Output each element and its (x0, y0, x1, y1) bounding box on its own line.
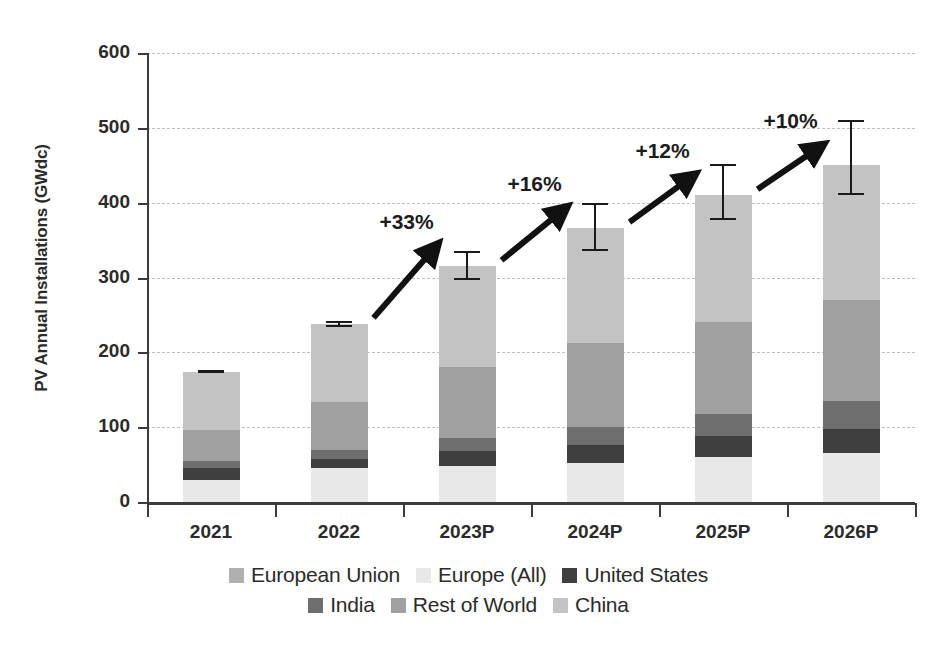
bar-segment-europe-all (311, 468, 368, 502)
error-bar-cap-bottom (582, 249, 608, 251)
y-tick-label-200: 200 (58, 340, 130, 362)
y-axis-title: PV Annual Installations (GWdc) (32, 58, 52, 478)
x-tick-6 (915, 503, 917, 517)
legend-row-bottom: IndiaRest of WorldChina (0, 593, 937, 617)
y-tick-400 (138, 203, 149, 205)
legend-swatch-icon (391, 598, 406, 613)
legend-label: China (575, 593, 629, 617)
gridline-100 (147, 427, 915, 428)
error-bar-cap-top (838, 120, 864, 122)
bar-segment-china (311, 324, 368, 402)
bar-segment-europe-all (183, 480, 240, 502)
error-bar-cap-top (326, 321, 352, 323)
gridline-600 (147, 53, 915, 54)
error-bar-cap-bottom (838, 193, 864, 195)
x-tick-4 (659, 503, 661, 517)
bar-segment-india (695, 414, 752, 436)
bar-2021 (183, 372, 240, 502)
bar-segment-united-states (567, 445, 624, 463)
bar-2024p (567, 228, 624, 502)
y-tick-100 (138, 427, 149, 429)
legend-item-european-union[interactable]: European Union (229, 563, 400, 587)
error-bar-cap-bottom (454, 278, 480, 280)
error-bar-stem (722, 164, 724, 220)
error-bar-2026p (823, 120, 880, 195)
bar-2026p (823, 165, 880, 502)
x-tick-3 (531, 503, 533, 517)
growth-label-2025p: +12% (635, 139, 689, 163)
legend-swatch-icon (416, 568, 431, 583)
y-tick-label-100: 100 (58, 415, 130, 437)
error-bar-stem (594, 203, 596, 252)
pv-installations-chart: PV Annual Installations (GWdc) 010020030… (0, 0, 937, 663)
error-bar-2024p (567, 203, 624, 252)
legend-item-india[interactable]: India (308, 593, 375, 617)
bar-2023p (439, 266, 496, 502)
error-bar-2023p (439, 251, 496, 280)
error-bar-2022 (311, 321, 368, 327)
bar-segment-united-states (311, 459, 368, 468)
error-bar-2025p (695, 164, 752, 220)
y-tick-label-500: 500 (58, 116, 130, 138)
bar-segment-united-states (439, 451, 496, 466)
x-tick-label-2023p: 2023P (407, 521, 527, 543)
y-tick-label-600: 600 (58, 41, 130, 63)
legend-row-top: European UnionEurope (All)United States (0, 563, 937, 587)
gridline-400 (147, 203, 915, 204)
gridline-300 (147, 278, 915, 279)
y-tick-label-0: 0 (58, 490, 130, 512)
legend-swatch-icon (562, 568, 577, 583)
bar-2025p (695, 195, 752, 502)
bar-segment-united-states (183, 468, 240, 481)
x-tick-label-2024p: 2024P (535, 521, 655, 543)
legend-label: European Union (251, 563, 400, 587)
legend-swatch-icon (553, 598, 568, 613)
x-tick-0 (147, 503, 149, 517)
x-tick-2 (403, 503, 405, 517)
legend-item-united-states[interactable]: United States (562, 563, 707, 587)
error-bar-2021 (183, 370, 240, 373)
bar-segment-united-states (823, 429, 880, 454)
bar-segment-rest-of-world (695, 322, 752, 413)
bar-segment-rest-of-world (439, 367, 496, 438)
legend-item-china[interactable]: China (553, 593, 629, 617)
bar-segment-india (567, 427, 624, 445)
error-bar-cap-top (710, 164, 736, 166)
y-tick-600 (138, 53, 149, 55)
y-tick-label-300: 300 (58, 266, 130, 288)
bar-segment-india (823, 401, 880, 429)
error-bar-cap-top (582, 203, 608, 205)
error-bar-cap-top (454, 251, 480, 253)
bar-segment-europe-all (695, 457, 752, 502)
gridline-200 (147, 352, 915, 353)
x-tick-label-2026p: 2026P (791, 521, 911, 543)
bar-segment-rest-of-world (567, 343, 624, 427)
error-bar-cap-bottom (326, 325, 352, 327)
legend-item-rest-of-world[interactable]: Rest of World (391, 593, 537, 617)
bar-segment-china (439, 266, 496, 367)
chart-legend: European UnionEurope (All)United States … (0, 563, 937, 623)
y-tick-200 (138, 352, 149, 354)
bar-segment-india (183, 461, 240, 468)
growth-label-2024p: +16% (507, 172, 561, 196)
legend-label: India (330, 593, 375, 617)
x-tick-label-2021: 2021 (151, 521, 271, 543)
bar-segment-rest-of-world (311, 402, 368, 451)
legend-swatch-icon (308, 598, 323, 613)
bar-segment-europe-all (439, 466, 496, 502)
growth-label-2023p: +33% (379, 210, 433, 234)
bar-segment-europe-all (567, 463, 624, 502)
legend-item-europe-all[interactable]: Europe (All) (416, 563, 546, 587)
x-tick-label-2025p: 2025P (663, 521, 783, 543)
bar-segment-china (183, 372, 240, 430)
legend-swatch-icon (229, 568, 244, 583)
x-tick-1 (275, 503, 277, 517)
error-bar-stem (850, 120, 852, 195)
bar-segment-rest-of-world (183, 430, 240, 461)
y-tick-label-400: 400 (58, 191, 130, 213)
bar-segment-india (439, 438, 496, 451)
y-tick-500 (138, 128, 149, 130)
growth-label-2026p: +10% (763, 109, 817, 133)
bar-segment-rest-of-world (823, 300, 880, 401)
error-bar-stem (466, 251, 468, 280)
